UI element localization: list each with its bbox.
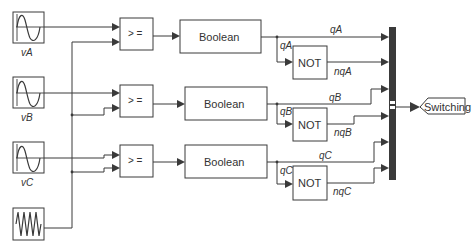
signal-label-qB: qB bbox=[329, 92, 342, 103]
wire-nqB bbox=[327, 116, 381, 124]
boolean-converter-A[interactable]: Boolean bbox=[180, 20, 261, 53]
source-label-vC: vC bbox=[21, 177, 34, 188]
not-gate-C[interactable]: NOT bbox=[293, 166, 327, 200]
signal-label-nqB: nqB bbox=[334, 127, 352, 138]
signal-label-nqA: nqA bbox=[334, 66, 352, 77]
sine-source-vA[interactable]: vA bbox=[13, 12, 44, 58]
not-label: NOT bbox=[298, 57, 322, 69]
not-label: NOT bbox=[298, 119, 322, 131]
sine-source-vB[interactable]: vB bbox=[13, 77, 44, 123]
signal-label-nqC: nqC bbox=[333, 186, 352, 197]
triangle-carrier-source[interactable] bbox=[13, 208, 44, 240]
not-gate-A[interactable]: NOT bbox=[293, 46, 327, 79]
boolean-label: Boolean bbox=[204, 98, 244, 110]
source-label-vB: vB bbox=[21, 112, 33, 123]
comparator-label: > = bbox=[128, 95, 143, 106]
comparator-label: > = bbox=[128, 28, 143, 39]
source-label-vA: vA bbox=[21, 47, 33, 58]
comparator-label: > = bbox=[128, 155, 143, 166]
sine-source-vC[interactable]: vC bbox=[13, 142, 44, 188]
wire-vC bbox=[44, 155, 113, 158]
wire-nqC bbox=[327, 168, 381, 183]
signal-label-qA-branch: qA bbox=[280, 40, 293, 51]
goto-tag-label: Switching bbox=[424, 101, 471, 113]
not-label: NOT bbox=[298, 177, 322, 189]
comparator-C[interactable]: > = bbox=[120, 145, 153, 177]
goto-tag-switching[interactable]: Switching bbox=[420, 98, 471, 114]
comparator-A[interactable]: > = bbox=[120, 18, 153, 50]
boolean-label: Boolean bbox=[199, 31, 239, 43]
wire-carrier-C bbox=[72, 168, 113, 172]
wire-qB bbox=[267, 89, 381, 104]
signal-label-qA: qA bbox=[330, 24, 343, 35]
simulink-diagram-canvas: vA vB vC > = > = bbox=[0, 0, 476, 252]
wire-carrier-bus bbox=[44, 42, 113, 228]
boolean-converter-B[interactable]: Boolean bbox=[185, 87, 267, 120]
wire-carrier-B bbox=[72, 108, 113, 115]
signal-label-qB-branch: qB bbox=[280, 106, 293, 117]
signal-label-qC: qC bbox=[319, 150, 333, 161]
signal-label-qC-branch: qC bbox=[280, 165, 294, 176]
mux-block[interactable] bbox=[389, 27, 396, 180]
boolean-converter-C[interactable]: Boolean bbox=[185, 145, 267, 178]
boolean-label: Boolean bbox=[204, 156, 244, 168]
comparator-B[interactable]: > = bbox=[120, 85, 153, 117]
not-gate-B[interactable]: NOT bbox=[293, 108, 327, 141]
